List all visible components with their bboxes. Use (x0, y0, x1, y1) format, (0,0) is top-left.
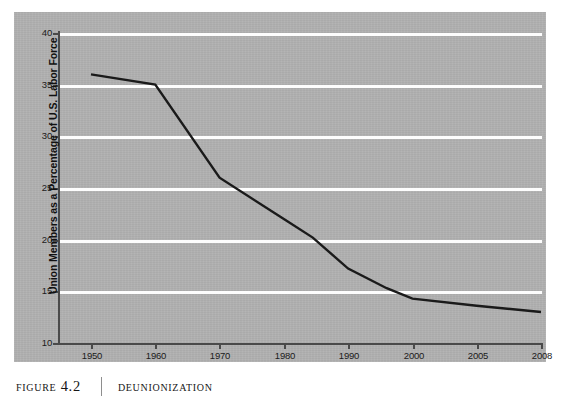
x-tick-mark-1980 (284, 343, 286, 349)
x-tick-label-1960: 1960 (134, 350, 178, 361)
gridline-35 (60, 85, 542, 88)
x-tick-mark-1970 (219, 343, 221, 349)
x-axis-line (58, 343, 543, 345)
gridline-25 (60, 188, 542, 191)
y-axis-title: Union Members as a Percentage of U.S. La… (47, 38, 59, 294)
x-tick-label-1980: 1980 (263, 350, 307, 361)
x-tick-label-2005: 2005 (456, 350, 500, 361)
x-tick-mark-2005 (477, 343, 479, 349)
x-tick-label-2000: 2000 (392, 350, 436, 361)
figure-title: Deunionization (118, 378, 213, 395)
y-tick-mark-10 (53, 343, 59, 345)
x-tick-label-1990: 1990 (327, 350, 371, 361)
x-tick-mark-2000 (413, 343, 415, 349)
gridline-15 (60, 291, 542, 294)
x-tick-label-1950: 1950 (70, 350, 114, 361)
x-tick-label-2008: 2008 (520, 350, 564, 361)
x-tick-mark-1960 (155, 343, 157, 349)
gridline-20 (60, 240, 542, 243)
plot-area (60, 33, 542, 343)
gridline-40 (60, 33, 542, 36)
figure-deunionization: 40 35 30 25 20 15 10 1950 1960 1970 1980… (0, 0, 582, 405)
y-tick-label-10: 10 (22, 337, 52, 348)
x-tick-mark-2008 (541, 343, 543, 349)
gridline-30 (60, 136, 542, 139)
y-tick-mark-40 (53, 33, 59, 35)
figure-caption: Figure 4.2 Deunionization (16, 374, 213, 398)
y-tick-label-10-wrap: 10 (16, 337, 52, 349)
x-tick-label-1970: 1970 (198, 350, 242, 361)
figure-number: Figure 4.2 (16, 378, 81, 395)
y-axis-title-host: Union Members as a Percentage of U.S. La… (22, 40, 36, 330)
x-tick-mark-1950 (91, 343, 93, 349)
x-tick-mark-1990 (348, 343, 350, 349)
caption-divider (101, 377, 102, 396)
